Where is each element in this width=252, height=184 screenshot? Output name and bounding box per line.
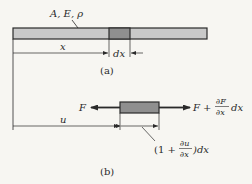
- deformed-length-label: (1 + ∂u ∂x )dx: [154, 139, 209, 159]
- axial-bar-diagram: A, E, ρ x dx (a) F F + ∂F ∂x dx: [0, 0, 252, 184]
- right-force-base: F +: [192, 102, 212, 113]
- right-force-denominator: ∂x: [216, 108, 225, 117]
- deformed-length-numerator: ∂u: [180, 139, 189, 148]
- right-force-suffix: dx: [231, 102, 243, 113]
- caption-b: (b): [100, 166, 114, 177]
- figure-b: F F + ∂F ∂x dx u (1 + ∂u ∂x )dx (b): [13, 97, 243, 177]
- deformed-element: [120, 102, 159, 113]
- bar-properties-label: A, E, ρ: [49, 8, 83, 19]
- deformed-length-close: )dx: [192, 144, 209, 155]
- figure-a: A, E, ρ x dx (a): [13, 8, 207, 130]
- bar-element: [109, 28, 130, 39]
- u-label: u: [60, 114, 66, 125]
- deformed-length-leader: [142, 127, 155, 141]
- caption-a: (a): [100, 65, 114, 76]
- deformed-length-denominator: ∂x: [180, 150, 189, 159]
- right-force-label: F + ∂F ∂x dx: [192, 97, 243, 117]
- x-label: x: [60, 41, 66, 52]
- dx-label: dx: [113, 48, 125, 59]
- deformed-length-open: (1 +: [154, 144, 176, 155]
- properties-leader-line: [72, 20, 78, 28]
- right-force-numerator: ∂F: [216, 97, 226, 106]
- left-force-label: F: [78, 102, 87, 113]
